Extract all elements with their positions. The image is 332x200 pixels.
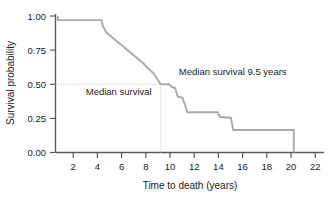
y-tick-label: 0.75: [28, 45, 47, 56]
x-tick-label: 2: [71, 161, 76, 172]
x-tick-label: 18: [262, 161, 273, 172]
survival-curve-figure: 0.00 0.25 0.50 0.75 1.00 2 4 6 8 10: [0, 0, 332, 200]
y-tick-label: 0.25: [28, 113, 47, 124]
median-survival-annotation: Median survival: [86, 86, 152, 97]
y-tick-label: 0.00: [28, 147, 47, 158]
x-tick-label: 22: [310, 161, 321, 172]
x-tick-label: 4: [95, 161, 100, 172]
x-tick-label: 10: [165, 161, 176, 172]
x-tick-label: 12: [189, 161, 200, 172]
y-axis-title: Survival probability: [5, 41, 16, 125]
x-tick-label: 20: [286, 161, 297, 172]
x-axis-title: Time to death (years): [143, 180, 238, 191]
x-axis-ticks: [73, 153, 315, 159]
median-survival-value-annotation: Median survival 9.5 years: [179, 66, 287, 77]
x-axis-tick-labels: 2 4 6 8 10 12 14 16 18 20 22: [71, 161, 321, 172]
x-tick-label: 6: [119, 161, 124, 172]
survival-chart-canvas: 0.00 0.25 0.50 0.75 1.00 2 4 6 8 10: [0, 0, 332, 200]
y-tick-label: 1.00: [28, 11, 47, 22]
x-tick-label: 16: [237, 161, 248, 172]
y-tick-label: 0.50: [28, 79, 47, 90]
y-axis-ticks: [50, 16, 56, 153]
x-tick-label: 14: [213, 161, 224, 172]
y-axis-tick-labels: 0.00 0.25 0.50 0.75 1.00: [28, 11, 47, 159]
x-tick-label: 8: [143, 161, 148, 172]
survival-curve-line: [58, 16, 294, 153]
